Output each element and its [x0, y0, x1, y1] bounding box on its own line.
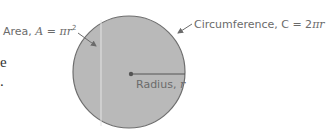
circumference-prefix: Circumference, C = 2	[194, 18, 312, 31]
area-expr: πr	[59, 25, 72, 38]
radius-prefix: Radius,	[136, 78, 180, 91]
radius-label: Radius, r	[136, 79, 185, 91]
radius-var: r	[180, 78, 185, 91]
left-text-fragment-2: .	[0, 73, 4, 89]
circumference-arrow	[178, 24, 192, 33]
area-eq: =	[43, 25, 59, 38]
left-text-fragment-1: e	[0, 54, 7, 70]
area-exponent: 2	[72, 24, 76, 32]
circumference-label: Circumference, C = 2πr	[194, 19, 325, 31]
circle-diagram: Area, A = πr2 Circumference, C = 2πr Rad…	[0, 0, 328, 139]
circumference-var: r	[319, 18, 324, 31]
circle-shape	[73, 16, 185, 128]
area-label-prefix: Area,	[3, 25, 35, 38]
area-label: Area, A = πr2	[3, 22, 76, 38]
center-dot	[129, 72, 133, 76]
